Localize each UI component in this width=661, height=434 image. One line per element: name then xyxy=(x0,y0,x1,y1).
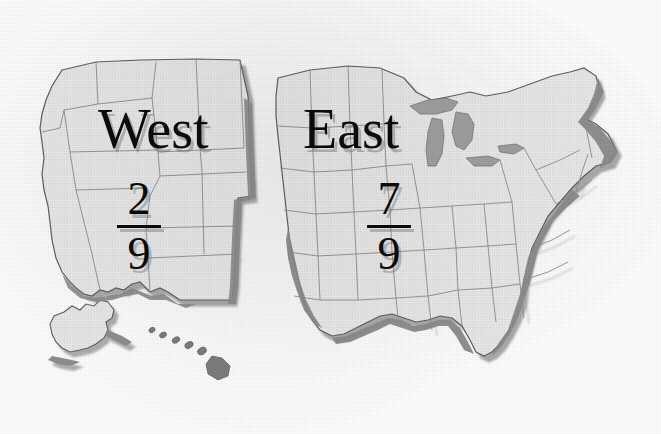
hawaii-island-1 xyxy=(148,326,156,333)
east-region-label: East xyxy=(303,101,399,157)
map-graphic: West 2 9 East 7 9 xyxy=(0,0,661,434)
west-region-label: West xyxy=(98,101,209,157)
west-fraction: 2 9 xyxy=(117,176,161,278)
hawaii-island-3 xyxy=(171,336,181,345)
usa-map-svg xyxy=(0,0,661,434)
alaska-aleutians xyxy=(48,356,80,366)
hawaii-inset xyxy=(148,326,230,380)
hawaii-island-5 xyxy=(196,346,207,356)
alaska-panhandle xyxy=(106,330,132,346)
west-fraction-denominator: 9 xyxy=(128,231,151,278)
alaska-shape xyxy=(50,300,114,352)
east-fraction: 7 9 xyxy=(367,176,411,278)
hawaii-island-4 xyxy=(184,340,195,349)
hawaii-big-island xyxy=(206,356,230,380)
east-fraction-numerator: 7 xyxy=(378,176,401,223)
east-fraction-denominator: 9 xyxy=(378,231,401,278)
hawaii-island-2 xyxy=(159,331,168,339)
west-fraction-numerator: 2 xyxy=(128,176,151,223)
alaska-inset xyxy=(48,300,132,366)
